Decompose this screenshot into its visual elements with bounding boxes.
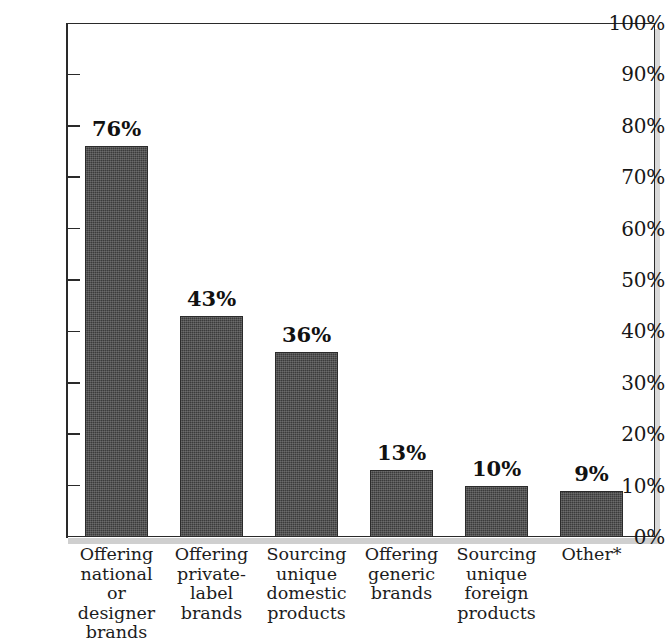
- bar-group: 10%: [465, 486, 528, 537]
- category-label-line: Sourcing: [449, 545, 544, 565]
- bar-value-label: 13%: [356, 442, 447, 463]
- category-label-line: brands: [164, 604, 259, 624]
- x-axis-category-label: Sourcinguniquedomesticproducts: [259, 545, 354, 623]
- category-label-line: Offering: [354, 545, 449, 565]
- category-label-line: brands: [354, 584, 449, 604]
- category-label-line: unique: [449, 565, 544, 585]
- category-label-line: Offering: [164, 545, 259, 565]
- bar-group: 13%: [370, 470, 433, 537]
- x-axis-category-label: Other*: [544, 545, 639, 565]
- bar: [465, 486, 528, 537]
- category-label-line: foreign: [449, 584, 544, 604]
- bar-value-label: 36%: [261, 324, 352, 345]
- x-axis-category-label: Offeringnational ordesignerbrands: [69, 545, 164, 642]
- bar: [275, 352, 338, 537]
- category-label-line: Offering: [69, 545, 164, 565]
- x-axis-category-label: Sourcinguniqueforeignproducts: [449, 545, 544, 623]
- bar-group: 43%: [180, 316, 243, 537]
- category-label-line: national or: [69, 565, 164, 604]
- bar: [560, 491, 623, 537]
- x-axis-category-label: Offeringprivate-labelbrands: [164, 545, 259, 623]
- bar-group: 76%: [85, 146, 148, 537]
- category-label-line: private-label: [164, 565, 259, 604]
- bar-value-label: 76%: [71, 118, 162, 139]
- category-label-line: products: [259, 604, 354, 624]
- category-label-line: domestic: [259, 584, 354, 604]
- bar-group: 36%: [275, 352, 338, 537]
- category-label-line: products: [449, 604, 544, 624]
- bar: [370, 470, 433, 537]
- bar-value-label: 43%: [166, 288, 257, 309]
- category-label-line: generic: [354, 565, 449, 585]
- bar-group: 9%: [560, 491, 623, 537]
- category-label-line: designer: [69, 604, 164, 624]
- category-label-line: unique: [259, 565, 354, 585]
- bar: [180, 316, 243, 537]
- bar-value-label: 10%: [451, 458, 542, 479]
- category-label-line: Other*: [544, 545, 639, 565]
- bar-value-label: 9%: [546, 463, 637, 484]
- category-label-line: Sourcing: [259, 545, 354, 565]
- category-label-line: brands: [69, 623, 164, 642]
- x-axis-category-label: Offeringgenericbrands: [354, 545, 449, 604]
- bar: [85, 146, 148, 537]
